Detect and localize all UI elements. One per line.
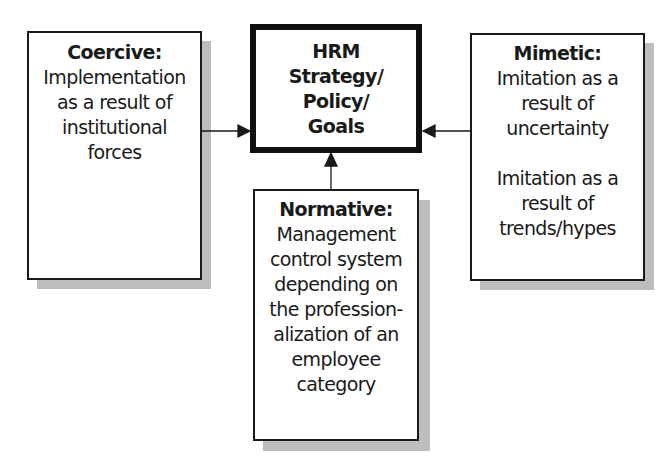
connector-arrows [0,0,668,468]
coercive-arrowhead-icon [238,125,250,137]
mimetic-arrowhead-icon [423,125,435,137]
normative-arrowhead-icon [325,153,337,166]
